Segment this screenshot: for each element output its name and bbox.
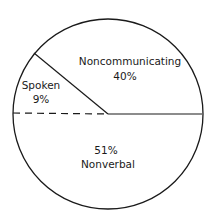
label-spoken-name: Spoken <box>22 79 61 91</box>
pie-chart: Noncommunicating 40% Spoken 9% 51% Nonve… <box>0 0 218 221</box>
label-noncommunicating-name: Noncommunicating <box>79 55 181 67</box>
label-spoken-pct: 9% <box>33 93 50 105</box>
label-noncommunicating-pct: 40% <box>113 70 136 82</box>
label-nonverbal-pct: 51% <box>94 144 117 156</box>
label-nonverbal-name: Nonverbal <box>81 158 135 170</box>
